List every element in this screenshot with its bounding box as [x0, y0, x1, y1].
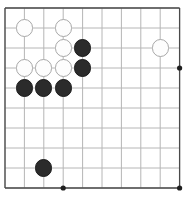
black-stone-c4r3[interactable] — [74, 59, 91, 76]
white-stone-c3r1[interactable] — [55, 19, 72, 36]
white-stone-c1r1[interactable] — [16, 19, 33, 36]
black-stone-c1r4[interactable] — [16, 79, 33, 96]
white-stone-c3r3[interactable] — [55, 59, 72, 76]
black-stone-c3r4[interactable] — [55, 79, 72, 96]
black-stone-c4r2[interactable] — [74, 39, 91, 56]
white-stone-c2r3[interactable] — [35, 59, 52, 76]
go-board-figure — [0, 0, 194, 208]
white-stone-c8r2[interactable] — [152, 39, 169, 56]
black-stone-c2r4[interactable] — [35, 79, 52, 96]
white-stone-c1r3[interactable] — [16, 59, 33, 76]
black-stone-c2r8[interactable] — [35, 159, 52, 176]
white-stone-c3r2[interactable] — [55, 39, 72, 56]
stone-layer — [0, 0, 194, 208]
